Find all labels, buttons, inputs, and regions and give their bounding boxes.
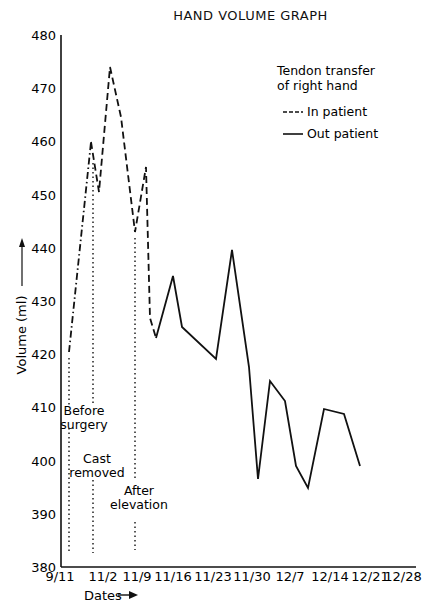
y-axis-label: Volume (ml) bbox=[14, 296, 29, 375]
x-axis-label: Dates bbox=[84, 588, 122, 603]
legend-title-line1: Tendon transfer bbox=[276, 63, 376, 78]
annotation-before-surgery: Before surgery bbox=[60, 403, 108, 432]
annotation-cast-removed: Cast removed bbox=[69, 451, 124, 480]
y-tick-labels: 380390400410420430440450460470480 bbox=[31, 28, 56, 575]
x-tick-label: 11/2 bbox=[88, 569, 117, 584]
y-tick-label: 450 bbox=[31, 188, 56, 203]
x-tick-label: 12/14 bbox=[311, 569, 348, 584]
x-tick-label: 12/7 bbox=[275, 569, 304, 584]
x-tick-label: 12/28 bbox=[384, 569, 421, 584]
x-tick-label: 11/30 bbox=[233, 569, 270, 584]
annotation-after-elevation: After elevation bbox=[110, 483, 168, 512]
x-tick-label: 12/21 bbox=[351, 569, 388, 584]
x-tick-label: 11/23 bbox=[194, 569, 231, 584]
svg-text:Cast: Cast bbox=[83, 451, 111, 466]
y-tick-label: 430 bbox=[31, 294, 56, 309]
svg-text:elevation: elevation bbox=[110, 497, 168, 512]
y-axis-label-text: Volume (ml) bbox=[14, 296, 29, 375]
series-pre-surgery-dashdot bbox=[69, 142, 91, 352]
legend: Tendon transfer of right hand In patient… bbox=[276, 63, 378, 141]
svg-text:removed: removed bbox=[69, 465, 124, 480]
svg-text:After: After bbox=[124, 483, 155, 498]
x-tick-label: 11/16 bbox=[154, 569, 191, 584]
y-tick-label: 390 bbox=[31, 507, 56, 522]
legend-entry-in-patient: In patient bbox=[307, 104, 367, 119]
y-axis-arrow-icon bbox=[19, 238, 25, 286]
y-tick-label: 400 bbox=[31, 454, 56, 469]
svg-text:surgery: surgery bbox=[60, 417, 108, 432]
y-tick-label: 460 bbox=[31, 134, 56, 149]
chart-canvas: 380390400410420430440450460470480 9/1111… bbox=[0, 0, 425, 606]
y-tick-label: 470 bbox=[31, 81, 56, 96]
x-tick-label: 9/11 bbox=[45, 569, 74, 584]
y-tick-label: 420 bbox=[31, 347, 56, 362]
legend-title-line2: of right hand bbox=[277, 78, 358, 93]
legend-entry-out-patient: Out patient bbox=[307, 126, 378, 141]
x-tick-label: 11/9 bbox=[122, 569, 151, 584]
y-tick-label: 480 bbox=[31, 28, 56, 43]
series-out-patient bbox=[156, 250, 360, 488]
y-tick-label: 410 bbox=[31, 400, 56, 415]
series-in-patient bbox=[91, 67, 156, 338]
y-tick-label: 440 bbox=[31, 241, 56, 256]
svg-text:Before: Before bbox=[64, 403, 105, 418]
x-tick-labels: 9/1111/211/911/1611/2311/3012/712/1412/2… bbox=[45, 569, 421, 584]
